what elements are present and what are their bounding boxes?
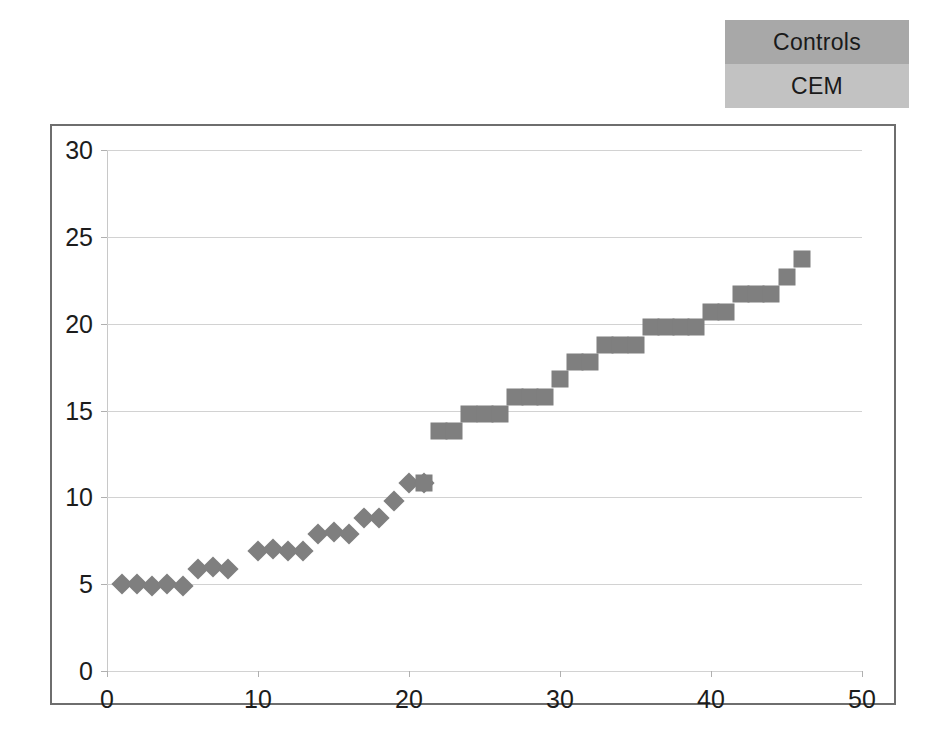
- data-point-cem: [763, 286, 780, 303]
- y-axis-tick: [101, 237, 107, 238]
- legend-label-controls: Controls: [773, 31, 861, 54]
- x-axis-tick-label: 50: [848, 685, 876, 714]
- data-point-controls: [217, 558, 238, 579]
- y-axis-tick: [101, 411, 107, 412]
- y-axis-tick-label: 0: [79, 657, 93, 686]
- chart-legend: Controls CEM: [725, 20, 909, 108]
- data-point-cem: [778, 268, 795, 285]
- gridline-y: [107, 497, 862, 498]
- data-point-cem: [552, 371, 569, 388]
- y-axis-tick-label: 25: [65, 222, 93, 251]
- legend-entry-cem: CEM: [725, 64, 909, 108]
- y-axis-tick: [101, 584, 107, 585]
- y-axis-tick-label: 20: [65, 309, 93, 338]
- x-axis-tick-label: 0: [100, 685, 114, 714]
- gridline-y: [107, 237, 862, 238]
- legend-label-cem: CEM: [791, 75, 843, 98]
- chart-frame: 051015202530 01020304050: [50, 124, 896, 705]
- gridline-y: [107, 150, 862, 151]
- data-point-controls: [383, 490, 404, 511]
- plot-area: 051015202530 01020304050: [107, 150, 862, 671]
- data-point-cem: [536, 388, 553, 405]
- gridline-y: [107, 584, 862, 585]
- y-axis-tick-label: 15: [65, 396, 93, 425]
- data-point-controls: [172, 575, 193, 596]
- data-point-cem: [446, 423, 463, 440]
- x-axis-tick: [409, 671, 410, 677]
- y-axis-tick: [101, 324, 107, 325]
- data-point-controls: [338, 523, 359, 544]
- legend-entry-controls: Controls: [725, 20, 909, 64]
- data-point-controls: [293, 541, 314, 562]
- data-point-cem: [627, 336, 644, 353]
- y-axis-tick: [101, 497, 107, 498]
- x-axis-tick: [711, 671, 712, 677]
- y-axis-tick-label: 30: [65, 136, 93, 165]
- x-axis-tick: [862, 671, 863, 677]
- data-point-controls: [368, 508, 389, 529]
- gridline-y: [107, 324, 862, 325]
- gridline-y: [107, 671, 862, 672]
- x-axis-tick: [560, 671, 561, 677]
- data-point-cem: [718, 303, 735, 320]
- y-axis-tick-label: 5: [79, 570, 93, 599]
- y-axis-tick-label: 10: [65, 483, 93, 512]
- x-axis-tick: [107, 671, 108, 677]
- x-axis-tick-label: 10: [244, 685, 272, 714]
- x-axis-tick-label: 20: [395, 685, 423, 714]
- data-point-cem: [687, 319, 704, 336]
- data-point-cem: [582, 353, 599, 370]
- y-axis-tick: [101, 150, 107, 151]
- data-point-cem: [793, 251, 810, 268]
- x-axis-tick-label: 30: [546, 685, 574, 714]
- x-axis-tick-label: 40: [697, 685, 725, 714]
- x-axis-tick: [258, 671, 259, 677]
- data-point-cem: [491, 405, 508, 422]
- data-point-cem: [416, 475, 433, 492]
